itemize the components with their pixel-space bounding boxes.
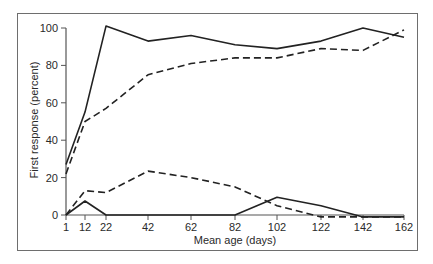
x-tick-label: 1 (63, 221, 69, 233)
y-axis-title: First response (percent) (28, 62, 40, 179)
series-line-2 (66, 30, 404, 174)
y-tick-label: 80 (46, 59, 58, 71)
line-chart: 02040608010011222426282102122142162 Mean… (0, 0, 433, 264)
axis-labels: Mean age (days) First response (percent) (28, 62, 276, 246)
series-line-3 (66, 171, 404, 217)
y-tick-label: 20 (46, 172, 58, 184)
x-tick-label: 142 (354, 221, 372, 233)
series-line-4 (66, 197, 404, 217)
x-axis-title: Mean age (days) (194, 234, 277, 246)
y-tick-label: 0 (52, 209, 58, 221)
y-tick-label: 40 (46, 134, 58, 146)
x-tick-label: 162 (395, 221, 413, 233)
series-lines (66, 26, 404, 217)
series-line-1 (66, 26, 404, 164)
x-tick-label: 22 (100, 221, 112, 233)
y-tick-label: 100 (40, 22, 58, 34)
x-tick-label: 102 (268, 221, 286, 233)
x-tick-label: 42 (142, 221, 154, 233)
x-tick-label: 82 (229, 221, 241, 233)
x-tick-label: 122 (312, 221, 330, 233)
x-tick-label: 62 (185, 221, 197, 233)
y-tick-label: 60 (46, 97, 58, 109)
x-tick-label: 12 (79, 221, 91, 233)
axes: 02040608010011222426282102122142162 (40, 22, 414, 233)
